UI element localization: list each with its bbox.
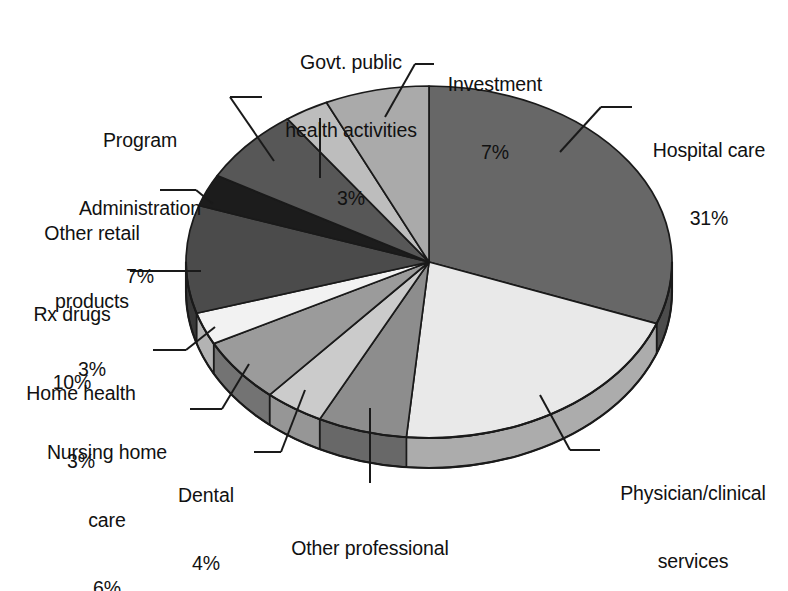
label-physician-clinical-services-line1: Physician/clinical xyxy=(598,482,788,505)
label-investment: Investment 7% xyxy=(425,28,565,209)
label-program-administration-line1: Program xyxy=(48,129,232,152)
label-rx-drugs-line1: Rx drugs xyxy=(16,303,128,326)
label-physician-clinical-services: Physician/clinical services 21% xyxy=(598,437,788,591)
label-investment-line1: Investment xyxy=(425,73,565,96)
label-other-professional-services: Other professional services 6% xyxy=(265,492,475,591)
label-other-professional-services-line1: Other professional xyxy=(265,537,475,560)
label-hospital-care: Hospital care 31% xyxy=(630,94,788,275)
label-other-retail-products-line1: Other retail xyxy=(22,222,162,245)
label-dental: Dental 4% xyxy=(158,439,254,591)
label-hospital-care-line1: Hospital care xyxy=(630,139,788,162)
label-hospital-care-value: 31% xyxy=(630,207,788,230)
label-dental-line1: Dental xyxy=(158,484,254,507)
label-dental-value: 4% xyxy=(158,552,254,575)
label-physician-clinical-services-line2: services xyxy=(598,550,788,573)
pie-chart-figure: Hospital care 31%Physician/clinical serv… xyxy=(0,0,788,591)
label-investment-value: 7% xyxy=(425,141,565,164)
